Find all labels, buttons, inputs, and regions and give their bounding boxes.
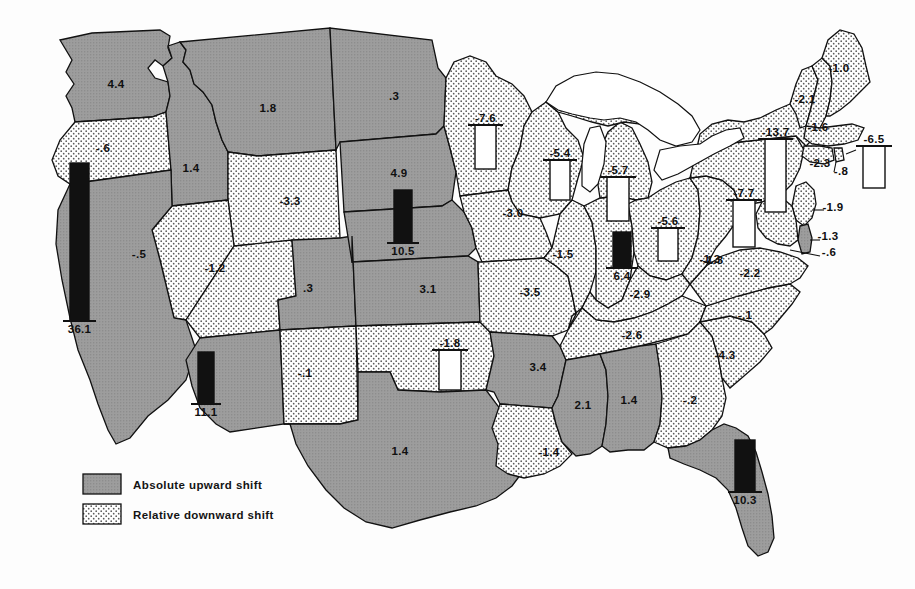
state-shape-DE[interactable] (798, 224, 812, 254)
bar-rect-MA (863, 146, 885, 188)
bar-value-NY: -13.7 (762, 126, 790, 138)
state-shape-AR[interactable] (486, 332, 566, 408)
legend-label-relative-downward: Relative downward shift (133, 509, 274, 521)
state-value-CO: .3 (303, 282, 313, 294)
state-shape-NM[interactable] (280, 326, 358, 424)
state-value-GA: -.2 (683, 394, 697, 406)
state-value-ND: .3 (389, 90, 399, 102)
state-value-CT: -2.3 (809, 157, 830, 169)
legend: Absolute upward shift Relative downward … (83, 474, 274, 524)
bar-MA[interactable]: -6.5 (856, 133, 892, 188)
state-value-MS: 2.1 (575, 399, 592, 411)
state-value-KS: 3.1 (420, 283, 437, 295)
state-value-NC: -.1 (738, 309, 753, 321)
state-value-ID: 1.4 (183, 162, 200, 174)
bar-value-PA: -7.7 (733, 187, 754, 199)
bar-rect-PA (733, 200, 755, 247)
bar-rect-NY (765, 139, 786, 212)
bar-value-NE: 10.5 (391, 245, 415, 257)
state-value-WA: 4.4 (108, 78, 125, 90)
state-value-VT: -2.1 (794, 93, 815, 105)
bar-rect-NE (394, 190, 412, 243)
state-value-NV: -.5 (132, 248, 147, 260)
legend-label-absolute-upward: Absolute upward shift (133, 479, 262, 491)
bar-value-IL: 6.4 (614, 270, 631, 282)
state-shape-RI[interactable] (834, 148, 844, 162)
leader-ma (846, 150, 856, 154)
state-value-SC: -4.3 (714, 349, 735, 361)
bar-value-CA: 36.1 (68, 323, 92, 335)
bar-rect-FL (735, 440, 755, 492)
state-value-IL: -1.5 (552, 248, 573, 260)
state-value-MT: 1.8 (260, 102, 277, 114)
bar-value-OH: -5.6 (657, 215, 678, 227)
state-value-TX: 1.4 (392, 445, 409, 457)
state-value-AR: 3.4 (530, 361, 547, 373)
bar-rect-WI (550, 160, 570, 200)
state-value-RI: -.8 (834, 165, 849, 177)
bar-value-WI: -5.4 (549, 147, 570, 159)
us-map-svg: 4.4-.6-.51.41.8-3.3-1.2.3-.1.34.93.11.4-… (0, 0, 915, 589)
state-value-NH: -1.6 (807, 121, 828, 133)
state-value-OR: -.6 (96, 142, 110, 154)
state-value-AL: 1.4 (621, 394, 638, 406)
bar-value-AZ: 11.1 (195, 406, 218, 418)
legend-swatch-upward (83, 474, 121, 494)
state-value-VA: -2.2 (739, 267, 760, 279)
state-value-KY: -2.9 (629, 288, 650, 300)
bar-value-FL: 10.3 (733, 494, 757, 506)
bar-rect-CA (70, 163, 89, 321)
bar-value-MN: -7.6 (475, 112, 496, 124)
state-value-TN: -2.6 (621, 329, 642, 341)
legend-swatch-downward (83, 504, 121, 524)
bar-rect-MN (475, 125, 496, 169)
state-value-IA: -3.0 (502, 207, 523, 219)
state-value-SD: 4.9 (391, 167, 408, 179)
state-value-UT: -1.2 (204, 262, 225, 274)
bar-rect-OH (658, 228, 678, 261)
bar-value-OK: -1.8 (439, 337, 460, 349)
map-figure: 4.4-.6-.51.41.8-3.3-1.2.3-.1.34.93.11.4-… (0, 0, 915, 589)
bar-rect-AZ (198, 352, 214, 404)
state-value-NM: -.1 (298, 367, 313, 379)
state-shape-WA[interactable] (60, 30, 172, 122)
state-value-MO: -3.5 (519, 286, 540, 298)
state-value-ME: -1.0 (828, 62, 849, 74)
state-value-WV: -1.3 (702, 254, 723, 266)
state-value-WY: -3.3 (279, 195, 300, 207)
state-value-DE: -1.3 (817, 230, 838, 242)
bar-rect-OK (439, 350, 461, 390)
state-shape-ND[interactable] (330, 28, 446, 150)
state-value-NJ: -1.9 (822, 201, 843, 213)
state-value-MD: -.6 (822, 246, 836, 258)
bar-value-MI: -5.7 (607, 164, 628, 176)
state-value-LA: -1.4 (538, 446, 559, 458)
bar-rect-MI (607, 177, 629, 221)
bar-rect-IL (613, 232, 631, 268)
bar-value-MA: -6.5 (863, 133, 884, 145)
